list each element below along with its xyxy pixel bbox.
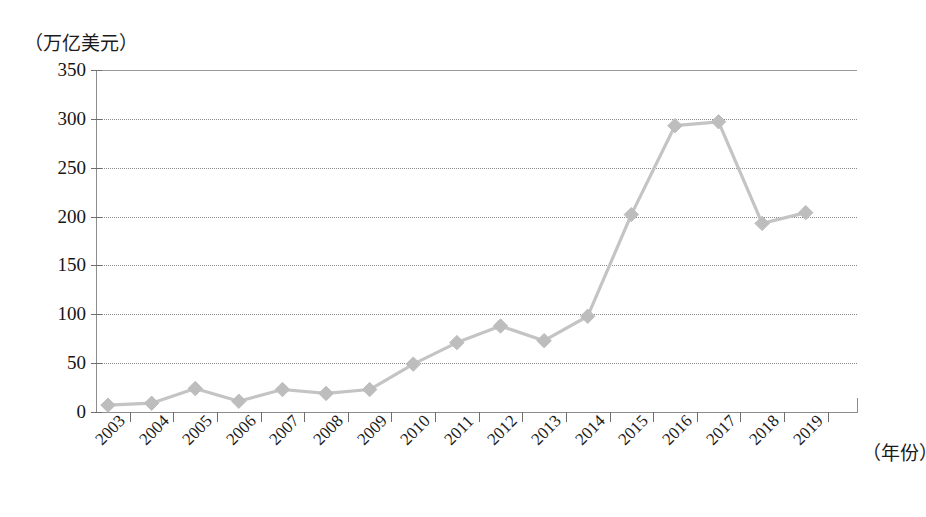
series-markers (101, 115, 813, 413)
data-point (711, 115, 725, 129)
data-point (624, 207, 638, 221)
data-point (537, 333, 551, 347)
data-point (188, 381, 202, 395)
data-series-layer (0, 0, 926, 517)
data-point (362, 382, 376, 396)
data-point (450, 335, 464, 349)
data-point (493, 319, 507, 333)
line-chart: （万亿美元） 050100150200250300350 20032004200… (0, 0, 926, 517)
data-point (319, 386, 333, 400)
x-axis-unit-label: （年份） (862, 438, 926, 465)
data-point (799, 205, 813, 219)
data-point (406, 357, 420, 371)
data-point (101, 398, 115, 412)
data-point (755, 216, 769, 230)
data-point (275, 382, 289, 396)
series-line (108, 122, 806, 405)
data-point (668, 118, 682, 132)
data-point (581, 309, 595, 323)
data-point (144, 396, 158, 410)
data-point (232, 394, 246, 408)
